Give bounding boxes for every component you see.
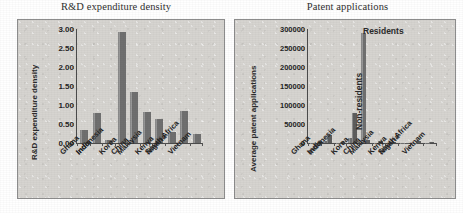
x-axis-labels-left: Ghana India Indonesia Korea China Malays…: [18, 20, 226, 200]
page-title-right: Patent applications: [232, 1, 463, 12]
x-axis-labels-right: Ghana India Indonesia Korea China Malays…: [235, 20, 457, 200]
plot-frame-right: Average patent applications 0 50000 1000…: [234, 19, 456, 199]
figure-container: R&D expenditure density R&D expenditure …: [0, 0, 463, 213]
plot-frame-left: R&D expenditure density 0.00 0.50 1.00 1…: [17, 19, 225, 199]
chart-panel-patent-applications: Patent applications Average patent appli…: [232, 0, 463, 213]
chart-panel-rd-expenditure: R&D expenditure density R&D expenditure …: [0, 0, 232, 213]
page-title-left: R&D expenditure density: [0, 1, 232, 12]
